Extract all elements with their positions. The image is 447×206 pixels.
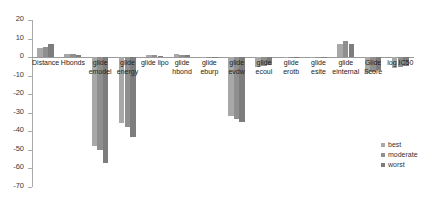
bar-moderate	[207, 57, 212, 58]
y-axis-tick-label: -30	[0, 108, 24, 116]
y-axis-tick-label: -40	[0, 126, 24, 134]
legend-item: worst	[381, 160, 418, 169]
bar-chart: 20100-10-20-30-40-50-60-70 DistanceHbond…	[0, 0, 447, 206]
bar-best	[64, 54, 69, 57]
y-axis-tick-label: -60	[0, 163, 24, 171]
x-axis-category-label: log IC50	[384, 59, 417, 68]
y-axis-tick-label: -50	[0, 145, 24, 153]
y-axis-tick	[28, 20, 32, 21]
bar-moderate	[179, 55, 184, 57]
legend-label: best	[388, 140, 401, 149]
y-axis-tick-label: -10	[0, 71, 24, 79]
bar-worst	[185, 55, 190, 57]
bar-moderate	[343, 41, 348, 57]
bar-worst	[48, 44, 53, 57]
bar-best	[146, 55, 151, 57]
bar-best	[174, 54, 179, 57]
bar-worst	[158, 56, 163, 57]
legend-item: moderate	[381, 150, 418, 159]
y-axis-tick	[28, 94, 32, 95]
bar-worst	[212, 57, 217, 58]
y-axis-tick-label: 20	[0, 15, 24, 23]
bar-moderate	[70, 54, 75, 58]
y-axis-tick	[28, 187, 32, 188]
bar-best	[283, 57, 288, 58]
y-axis-tick-label: -20	[0, 89, 24, 97]
y-axis-tick	[28, 150, 32, 151]
chart-legend: bestmoderateworst	[381, 140, 418, 170]
bar-moderate	[43, 47, 48, 57]
legend-swatch-icon	[381, 153, 385, 157]
bar-moderate	[316, 57, 321, 58]
legend-label: worst	[388, 160, 405, 169]
bar-moderate	[152, 55, 157, 57]
y-axis-tick	[28, 113, 32, 114]
bar-worst	[76, 55, 81, 57]
y-axis-tick	[28, 131, 32, 132]
y-axis-line	[32, 20, 33, 187]
legend-swatch-icon	[381, 163, 385, 167]
bar-best	[310, 57, 315, 58]
bar-worst	[321, 57, 326, 58]
bar-best	[337, 44, 342, 57]
legend-label: moderate	[388, 150, 418, 159]
legend-item: best	[381, 140, 418, 149]
y-axis-tick	[28, 76, 32, 77]
zero-baseline	[32, 57, 414, 58]
bar-best	[37, 48, 42, 57]
y-axis-tick-label: 10	[0, 34, 24, 42]
y-axis-tick	[28, 39, 32, 40]
bar-worst	[349, 44, 354, 57]
bar-worst	[294, 57, 299, 58]
legend-swatch-icon	[381, 143, 385, 147]
y-axis-tick-label: 0	[0, 52, 24, 60]
bar-best	[201, 57, 206, 58]
bar-moderate	[288, 57, 293, 58]
y-axis-tick-label: -70	[0, 182, 24, 190]
y-axis-tick	[28, 168, 32, 169]
y-axis-tick	[28, 57, 32, 58]
